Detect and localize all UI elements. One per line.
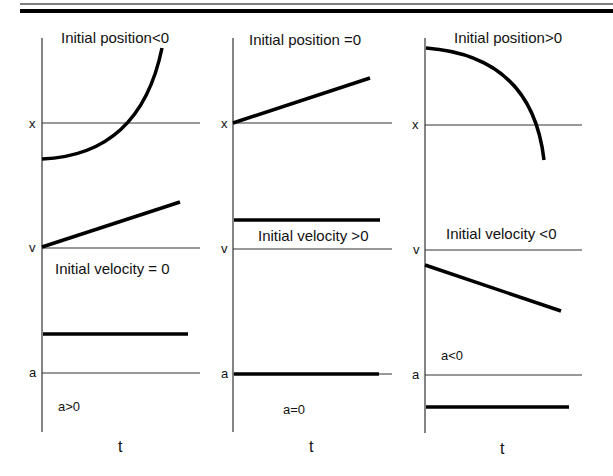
x-axis-label: x [412, 117, 419, 132]
velocity-title: Initial velocity = 0 [55, 260, 170, 277]
x-axis-label: x [29, 116, 36, 131]
velocity-line [42, 202, 180, 247]
position-curve [42, 48, 162, 159]
position-line [233, 78, 370, 123]
position-title: Initial position =0 [249, 31, 361, 48]
a-axis-label: a [221, 366, 229, 381]
v-axis-label: v [221, 241, 228, 256]
t-axis-label: t [118, 438, 123, 455]
accel-title: a<0 [441, 348, 463, 363]
v-axis-label: v [29, 240, 36, 255]
position-title: Initial position>0 [454, 29, 562, 46]
column-1: Initial position<0 x v Initial velocity … [29, 29, 200, 455]
velocity-title: Initial velocity <0 [446, 225, 556, 242]
accel-title: a=0 [283, 402, 305, 417]
column-3: Initial position>0 x Initial velocity <0… [412, 29, 582, 457]
position-curve [426, 48, 544, 160]
x-axis-label: x [221, 116, 228, 131]
t-axis-label: t [500, 440, 505, 457]
accel-title: a>0 [58, 399, 80, 414]
a-axis-label: a [412, 367, 420, 382]
position-title: Initial position<0 [61, 29, 169, 46]
velocity-title: Initial velocity >0 [258, 227, 368, 244]
t-axis-label: t [309, 438, 314, 455]
velocity-line [425, 265, 561, 311]
column-2: Initial position =0 x Initial velocity >… [221, 31, 392, 455]
a-axis-label: a [29, 365, 37, 380]
motion-graphs-diagram: Initial position<0 x v Initial velocity … [0, 0, 613, 476]
v-axis-label: v [413, 242, 420, 257]
